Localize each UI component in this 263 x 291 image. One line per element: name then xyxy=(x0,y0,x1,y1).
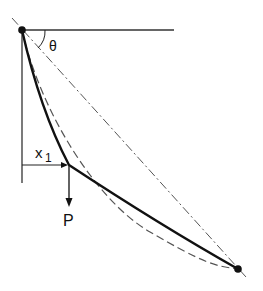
angle-arc xyxy=(38,30,45,48)
angle-label: θ xyxy=(49,38,57,54)
bottom-right-support-pin xyxy=(234,265,242,273)
distance-subscript-label: 1 xyxy=(45,151,52,165)
unloaded-cable-curve xyxy=(22,30,238,269)
top-left-support-pin xyxy=(18,26,26,34)
distance-label: x xyxy=(35,144,43,161)
cable-diagram: θ x 1 P xyxy=(0,0,263,291)
chord-line xyxy=(12,18,246,277)
load-arrowhead-icon xyxy=(66,198,73,207)
load-label: P xyxy=(63,212,74,229)
loaded-cable xyxy=(22,30,238,269)
